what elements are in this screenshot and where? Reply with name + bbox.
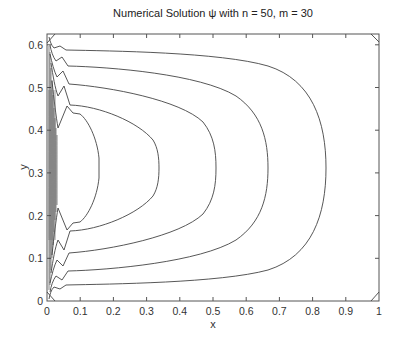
corner-artifact-tl [47,34,55,43]
svg-text:0.9: 0.9 [338,305,353,317]
svg-text:0.7: 0.7 [272,305,287,317]
svg-text:0.6: 0.6 [239,305,254,317]
chart-title: Numerical Solution ψ with n = 50, m = 30 [113,7,313,19]
x-tick-labels: 0 0.1 0.2 0.3 0.4 0.5 0.6 0.7 0.8 0.9 1 [44,305,382,317]
svg-text:0.8: 0.8 [305,305,320,317]
y-axis-label: y [17,164,29,170]
corner-artifact-bl [47,292,55,301]
svg-text:0.6: 0.6 [28,39,43,51]
svg-text:0.1: 0.1 [73,305,88,317]
contour-level-1 [52,81,99,255]
svg-text:0.4: 0.4 [172,305,187,317]
svg-text:0: 0 [44,305,50,317]
svg-text:0.5: 0.5 [28,82,43,94]
boundary-layer-shading [48,90,56,240]
svg-text:0.3: 0.3 [28,167,43,179]
contour-lines [47,34,379,301]
svg-text:1: 1 [376,305,382,317]
svg-text:0: 0 [37,295,43,307]
svg-text:0.4: 0.4 [28,124,43,136]
svg-text:0.2: 0.2 [106,305,121,317]
plot-area [47,34,379,301]
contour-figure: Numerical Solution ψ with n = 50, m = 30… [0,0,400,346]
svg-text:0.3: 0.3 [139,305,154,317]
corner-artifact-tr [371,34,379,42]
contour-level-5 [49,37,326,299]
y-ticks [47,45,379,258]
contour-level-3 [50,54,216,283]
corner-artifact-br [371,292,379,301]
contour-level-2 [51,63,159,273]
x-ticks [80,34,346,301]
svg-text:0.5: 0.5 [206,305,221,317]
svg-text:0.1: 0.1 [28,252,43,264]
svg-text:0.2: 0.2 [28,210,43,222]
y-tick-labels: 0 0.1 0.2 0.3 0.4 0.5 0.6 [28,39,43,307]
x-axis-label: x [210,318,216,330]
